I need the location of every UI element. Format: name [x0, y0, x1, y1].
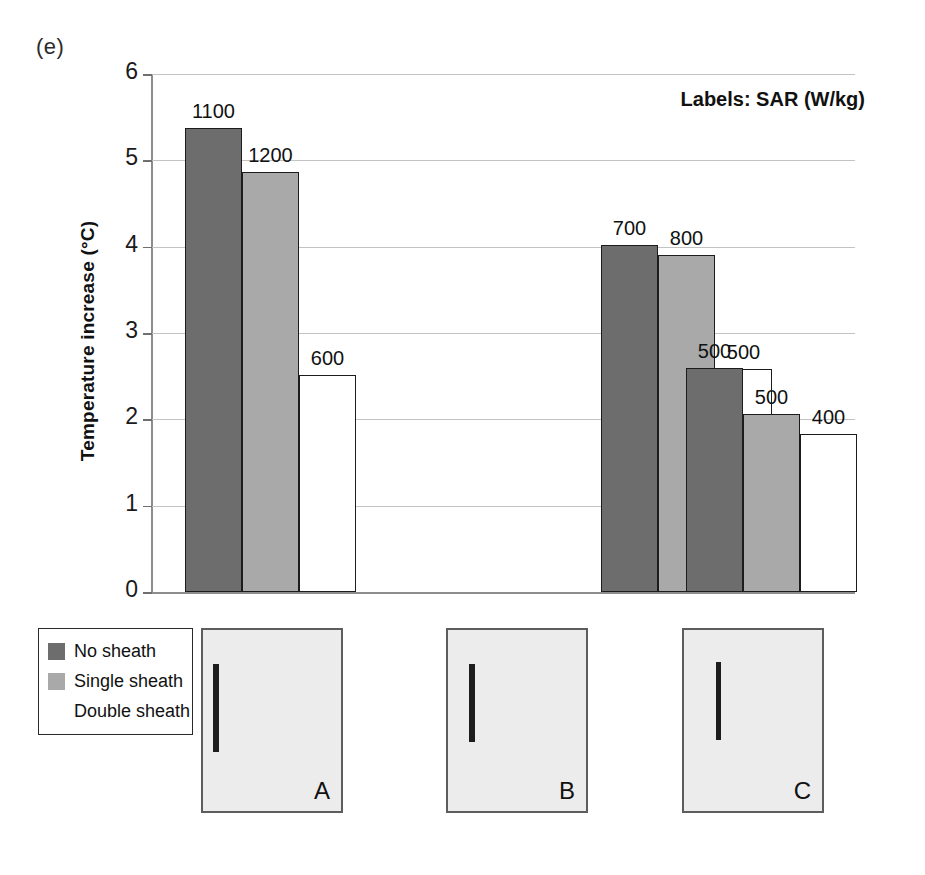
y-tick-mark	[143, 419, 152, 421]
legend-item: Double sheath	[48, 696, 183, 726]
photo-panel-letter: A	[314, 777, 330, 805]
photo-panel-c: C	[682, 628, 824, 813]
bar-c-single-sheath	[743, 414, 800, 592]
legend-swatch	[48, 673, 65, 690]
bar-value-label: 1100	[177, 100, 251, 123]
panel-label: (e)	[36, 34, 64, 60]
photo-panel-letter: B	[559, 777, 575, 805]
photo-panel-b: B	[446, 628, 588, 813]
bar-a-double-sheath	[299, 375, 356, 592]
y-tick-mark	[143, 506, 152, 508]
y-tick-label: 3	[104, 317, 138, 344]
y-tick-mark	[143, 74, 152, 76]
legend-swatch	[48, 643, 65, 660]
y-tick-label: 6	[104, 58, 138, 85]
y-tick-label: 1	[104, 490, 138, 517]
bar-value-label: 1200	[234, 144, 308, 167]
bar-a-no-sheath	[185, 128, 242, 592]
antenna-bar	[469, 664, 475, 742]
antenna-bar	[213, 664, 219, 752]
bar-b-no-sheath	[601, 245, 658, 592]
antenna-bar	[716, 662, 721, 740]
y-tick-mark	[143, 333, 152, 335]
y-tick-mark	[143, 592, 152, 594]
y-axis-title: Temperature increase (°C)	[77, 191, 99, 491]
legend-item: No sheath	[48, 636, 183, 666]
photo-panel-letter: C	[794, 777, 811, 805]
legend-swatch	[48, 703, 65, 720]
y-tick-label: 0	[104, 576, 138, 603]
y-tick-label: 5	[104, 144, 138, 171]
bar-a-single-sheath	[242, 172, 299, 592]
legend-label: Single sheath	[74, 671, 183, 692]
y-tick-label: 4	[104, 231, 138, 258]
bar-value-label: 400	[792, 406, 866, 429]
photo-panel-a: A	[201, 628, 343, 813]
legend-label: Double sheath	[74, 701, 190, 722]
bar-value-label: 600	[291, 347, 365, 370]
y-tick-label: 2	[104, 403, 138, 430]
legend-label: No sheath	[74, 641, 156, 662]
x-axis-line	[151, 592, 855, 594]
y-tick-mark	[143, 247, 152, 249]
legend-item: Single sheath	[48, 666, 183, 696]
bar-value-label: 800	[650, 227, 724, 250]
legend: No sheathSingle sheathDouble sheath	[38, 628, 193, 735]
bar-c-double-sheath	[800, 434, 857, 592]
bar-value-label: 500	[678, 340, 752, 363]
plot-area: 11001200600700800500500500400	[152, 74, 855, 592]
y-tick-mark	[143, 160, 152, 162]
